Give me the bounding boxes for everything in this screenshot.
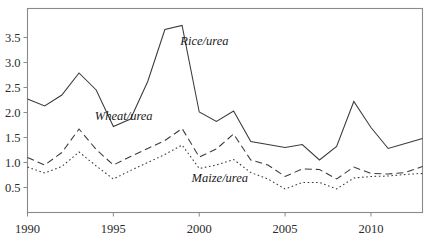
series-label-rice-urea: Rice/urea <box>179 34 228 48</box>
y-tick-label-1.5: 1.5 <box>5 131 21 145</box>
x-tick-label-2005: 2005 <box>273 222 298 236</box>
y-tick-label-2.5: 2.5 <box>5 81 21 95</box>
x-tick-label-1990: 1990 <box>15 222 40 236</box>
y-tick-label-1.0: 1.0 <box>5 156 21 170</box>
y-tick-label-3.0: 3.0 <box>5 56 21 70</box>
series-label-wheat-urea: Wheat/urea <box>95 109 153 123</box>
y-tick-label-0.5: 0.5 <box>5 181 21 195</box>
series-label-maize-urea: Maize/urea <box>191 171 248 185</box>
y-tick-label-3.5: 3.5 <box>5 31 21 45</box>
x-tick-label-2010: 2010 <box>358 222 383 236</box>
y-tick-label-2.0: 2.0 <box>5 106 21 120</box>
x-tick-label-2000: 2000 <box>187 222 212 236</box>
chart-figure: 0.51.01.52.02.53.03.5 199019952000200520… <box>0 0 433 247</box>
line-chart: 0.51.01.52.02.53.03.5 199019952000200520… <box>0 0 433 247</box>
x-tick-label-1995: 1995 <box>101 222 126 236</box>
